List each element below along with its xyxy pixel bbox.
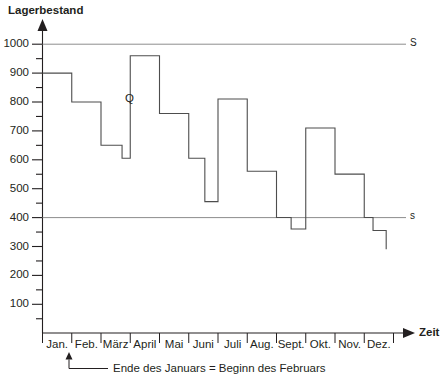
annotation-month-boundary: Ende des Januars = Beginn des Februars <box>66 352 326 374</box>
y-tick-label-200: 200 <box>10 268 29 280</box>
x-axis-title: Zeit <box>419 326 440 338</box>
annotation-text: Ende des Januars = Beginn des Februars <box>113 362 326 374</box>
y-tick-label-300: 300 <box>10 240 29 252</box>
x-tick-label-märz: März <box>103 338 129 350</box>
reference-label-upper: S <box>410 37 417 48</box>
y-tick-label-900: 900 <box>10 66 29 78</box>
x-tick-label-aug: Aug. <box>250 338 274 350</box>
x-axis-arrowhead <box>403 328 415 338</box>
y-tick-label-1000: 1000 <box>3 37 29 49</box>
y-tick-label-100: 100 <box>10 297 29 309</box>
chart-canvas: Lagerbestand Zeit 1000 900 800 700 600 5… <box>0 0 441 384</box>
y-axis-ticks: 1000 900 800 700 600 500 400 300 200 100 <box>3 37 42 309</box>
reference-label-lower: s <box>410 210 415 221</box>
reference-line-lower: s <box>43 210 416 221</box>
x-tick-label-sept: Sept. <box>278 338 305 350</box>
annotation-leader-line <box>69 360 108 369</box>
x-tick-label-juni: Juni <box>193 338 214 350</box>
x-tick-label-feb: Feb. <box>75 338 98 350</box>
annotation-arrowhead-icon <box>66 352 73 360</box>
y-tick-label-800: 800 <box>10 95 29 107</box>
inventory-step-chart: Lagerbestand Zeit 1000 900 800 700 600 5… <box>0 0 441 384</box>
inventory-step-series <box>43 56 387 250</box>
series-label-q: Q <box>125 92 134 104</box>
x-tick-label-nov: Nov. <box>338 338 361 350</box>
y-tick-label-500: 500 <box>10 182 29 194</box>
x-tick-label-okt: Okt. <box>310 338 331 350</box>
x-tick-label-juli: Juli <box>224 338 241 350</box>
y-tick-label-400: 400 <box>10 211 29 223</box>
y-tick-label-700: 700 <box>10 124 29 136</box>
x-tick-label-dez: Dez. <box>367 338 391 350</box>
reference-line-upper: S <box>43 37 418 48</box>
y-axis-title: Lagerbestand <box>8 4 83 16</box>
y-tick-label-600: 600 <box>10 153 29 165</box>
x-tick-label-jan: Jan. <box>46 338 68 350</box>
x-tick-label-mai: Mai <box>165 338 184 350</box>
x-tick-label-april: April <box>133 338 156 350</box>
